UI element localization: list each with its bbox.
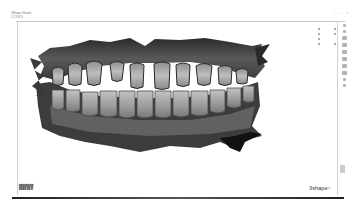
option-dot[interactable] [318,33,320,35]
option-dot[interactable] [318,38,320,40]
window-title: 3Shape Viewer 1 2 3 4 5 [11,11,31,19]
minimize-icon[interactable]: ‒ [335,11,337,15]
logo-text: 3shape [309,185,328,191]
3shape-logo: 3shape▷ [309,185,331,191]
option-dot[interactable] [318,28,320,30]
view-top-icon[interactable] [342,50,347,54]
bottom-status-bar [12,197,344,199]
zoom-icon[interactable] [342,71,347,75]
view-options-panel [318,28,336,45]
view-bottom-icon[interactable] [342,57,347,61]
window-subtitle: 1 2 3 4 5 [11,15,31,19]
option-dot[interactable] [334,33,336,35]
dental-scan-model[interactable] [30,36,270,161]
layers-icon[interactable] [340,165,345,173]
logo-mark-icon: ▷ [328,185,331,190]
option-dot[interactable] [318,43,320,45]
option-dot[interactable] [334,43,336,45]
pan-icon[interactable] [343,78,346,81]
measure-icon[interactable] [343,84,346,87]
right-toolbar [339,24,349,87]
right-divider [337,21,338,195]
view-back-icon[interactable] [343,30,346,33]
close-icon[interactable]: × [346,11,348,15]
view-right-icon[interactable] [342,43,347,47]
window-controls: ‒ □ × [335,11,348,15]
option-dot[interactable] [334,28,336,30]
maximize-icon[interactable]: □ [340,11,342,15]
scan-info-line2: ████ ██ █ [19,187,33,190]
view-front-icon[interactable] [343,24,346,27]
rotate-icon[interactable] [342,64,347,68]
view-left-icon[interactable] [342,36,347,40]
scan-info: ████████ ████ ██ █ [19,184,33,190]
